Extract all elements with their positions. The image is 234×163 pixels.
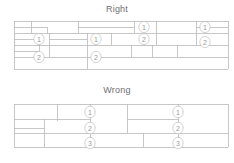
marker-right-1c: 1 xyxy=(139,21,149,32)
marker-wrong-2a: 2 xyxy=(85,122,95,134)
marker-label: 2 xyxy=(203,39,207,46)
marker-right-2a: 2 xyxy=(34,51,44,62)
marker-label: 1 xyxy=(203,24,207,31)
marker-right-2c: 2 xyxy=(139,33,149,44)
marker-wrong-1b: 1 xyxy=(173,106,183,118)
marker-label: 3 xyxy=(88,140,92,147)
masonry-wrong-diagram: 1 2 3 1 2 xyxy=(0,80,234,163)
marker-wrong-3b: 3 xyxy=(173,137,183,149)
marker-right-2d: 2 xyxy=(200,36,210,47)
panel-wrong: Wrong xyxy=(0,80,234,163)
marker-label: 1 xyxy=(37,36,41,43)
marker-right-1d: 1 xyxy=(200,21,210,32)
marker-wrong-1a: 1 xyxy=(85,106,95,118)
right-joint-markers: 1 2 1 2 1 xyxy=(34,21,210,62)
masonry-right-diagram: 1 2 1 2 1 xyxy=(0,0,234,80)
marker-label: 1 xyxy=(94,36,98,43)
marker-label: 1 xyxy=(142,24,146,31)
diagram-root: Right xyxy=(0,0,234,163)
marker-right-2b: 2 xyxy=(91,51,101,62)
marker-label: 2 xyxy=(142,36,146,43)
marker-wrong-3a: 3 xyxy=(85,137,95,149)
marker-label: 2 xyxy=(176,125,180,132)
marker-label: 2 xyxy=(37,54,41,61)
marker-right-1a: 1 xyxy=(34,33,44,44)
wrong-head-joints xyxy=(14,104,228,147)
marker-label: 1 xyxy=(88,109,92,116)
marker-label: 2 xyxy=(88,125,92,132)
marker-wrong-2b: 2 xyxy=(173,122,183,134)
marker-label: 2 xyxy=(94,54,98,61)
marker-label: 1 xyxy=(176,109,180,116)
panel-right: Right xyxy=(0,0,234,80)
marker-label: 3 xyxy=(176,140,180,147)
wrong-joint-markers: 1 2 3 1 2 xyxy=(85,106,183,149)
marker-right-1b: 1 xyxy=(91,33,101,44)
wrong-course-lines xyxy=(14,104,228,147)
